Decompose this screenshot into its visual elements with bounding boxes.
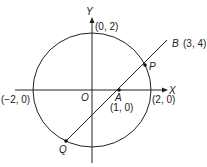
origin-label: O [81, 92, 89, 103]
left-point-label: (−2, 0) [1, 94, 30, 105]
point-b-label: B [172, 38, 179, 49]
point-q-label: Q [59, 144, 67, 155]
point-b-coords: (3, 4) [183, 38, 206, 49]
y-axis-arrow-icon [90, 17, 95, 23]
x-axis-arrow-icon [162, 88, 168, 93]
point-q [64, 139, 68, 143]
top-point-label: (0, 2) [95, 21, 118, 32]
point-a-coords: (1, 0) [110, 102, 133, 113]
y-axis-label: Y [86, 6, 94, 17]
coordinate-diagram: Y X O (0, 2) (−2, 0) (2, 0) A (1, 0) B (… [0, 0, 207, 167]
point-p-label: P [149, 61, 156, 72]
point-p [143, 63, 147, 67]
right-point-label: (2, 0) [152, 94, 175, 105]
